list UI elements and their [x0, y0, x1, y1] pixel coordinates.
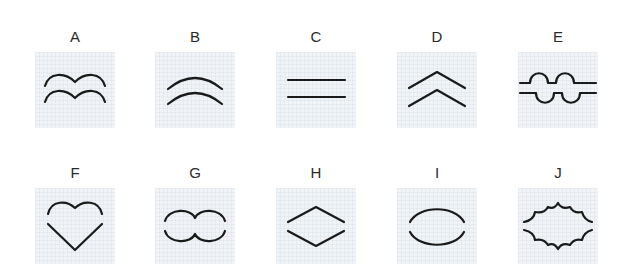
- panel-label: F: [35, 164, 115, 181]
- panel-label: I: [397, 164, 477, 181]
- heart-icon: [35, 188, 115, 264]
- double-chevron-icon: [397, 52, 477, 128]
- figure-eight-figure: [155, 188, 235, 264]
- burst-icon: [518, 188, 598, 264]
- interlocking-bumps-icon: [518, 52, 598, 128]
- double-wave-arcs-figure: [35, 52, 115, 128]
- panel-label: C: [276, 28, 356, 45]
- panel-label: G: [155, 164, 235, 181]
- burst-figure: [518, 188, 598, 264]
- ellipse-figure: [397, 188, 477, 264]
- double-arcs-figure: [155, 52, 235, 128]
- parallel-lines-icon: [276, 52, 356, 128]
- panel-label: B: [155, 28, 235, 45]
- diamond-figure: [276, 188, 356, 264]
- figure-eight-icon: [155, 188, 235, 264]
- parallel-lines-figure: [276, 52, 356, 128]
- double-arcs-icon: [155, 52, 235, 128]
- panel-label: D: [397, 28, 477, 45]
- heart-figure: [35, 188, 115, 264]
- ellipse-icon: [397, 188, 477, 264]
- panel-label: A: [35, 28, 115, 45]
- double-wave-arcs-icon: [35, 52, 115, 128]
- panel-label: E: [518, 28, 598, 45]
- interlocking-bumps-figure: [518, 52, 598, 128]
- panel-label: J: [518, 164, 598, 181]
- diamond-icon: [276, 188, 356, 264]
- double-chevron-figure: [397, 52, 477, 128]
- panel-label: H: [276, 164, 356, 181]
